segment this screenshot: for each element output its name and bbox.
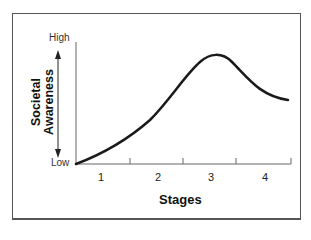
x-tick-label-4: 4 [262, 171, 268, 183]
awareness-curve [76, 55, 288, 164]
y-high-label: High [49, 32, 70, 43]
x-tick-label-1: 1 [98, 171, 104, 183]
x-tick-label-2: 2 [155, 171, 161, 183]
y-low-label: Low [51, 157, 69, 168]
y-axis-title-line2: Awareness [43, 69, 56, 135]
y-axis-title: Societal Awareness [13, 72, 73, 132]
x-axis-title: Stages [159, 192, 202, 207]
x-tick-label-3: 3 [208, 171, 214, 183]
